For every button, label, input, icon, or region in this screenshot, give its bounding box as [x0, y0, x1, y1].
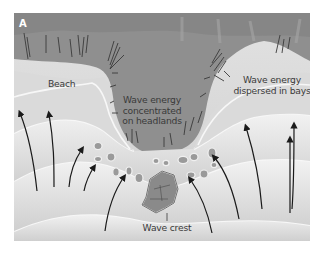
headland-label-line-1: Wave energy [110, 95, 194, 106]
panel-letter: A [19, 18, 27, 29]
diagram-stage: A Beach Wave energy concentrated on head… [0, 0, 325, 261]
wave-refraction-figure: A Beach Wave energy concentrated on head… [14, 13, 310, 241]
beach-label: Beach [48, 79, 75, 90]
wave-refraction-illustration [14, 13, 310, 241]
bay-label-line-1: Wave energy [232, 75, 310, 86]
headland-label-line-3: on headlands [110, 116, 194, 127]
wave-crest-label: Wave crest [136, 223, 198, 234]
headland-label: Wave energy concentrated on headlands [110, 95, 194, 127]
bay-label-line-2: dispersed in bays [232, 86, 310, 97]
bay-label: Wave energy dispersed in bays [232, 75, 310, 96]
